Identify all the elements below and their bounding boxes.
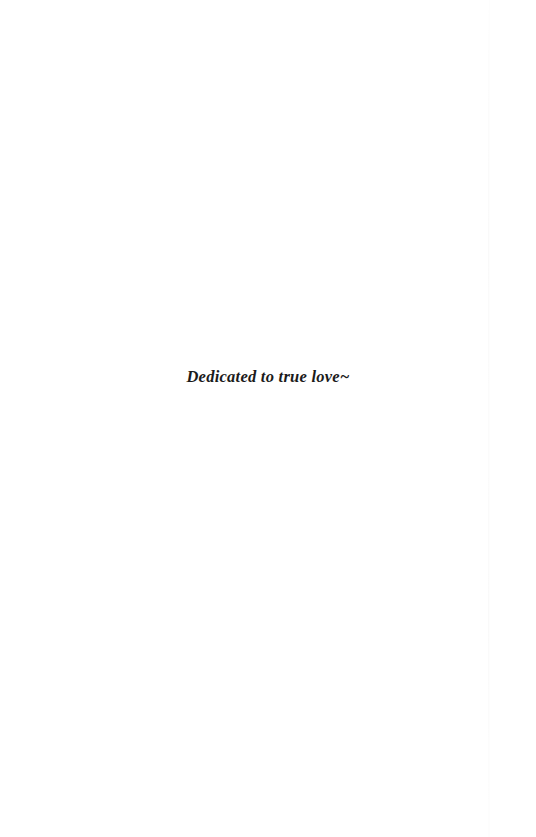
scan-gutter-artifact xyxy=(488,0,489,837)
dedication-text: Dedicated to true love~ xyxy=(186,366,349,388)
scan-gutter-artifact-secondary xyxy=(489,0,490,837)
document-page: Dedicated to true love~ xyxy=(0,0,536,837)
dedication-block: Dedicated to true love~ xyxy=(0,366,536,388)
